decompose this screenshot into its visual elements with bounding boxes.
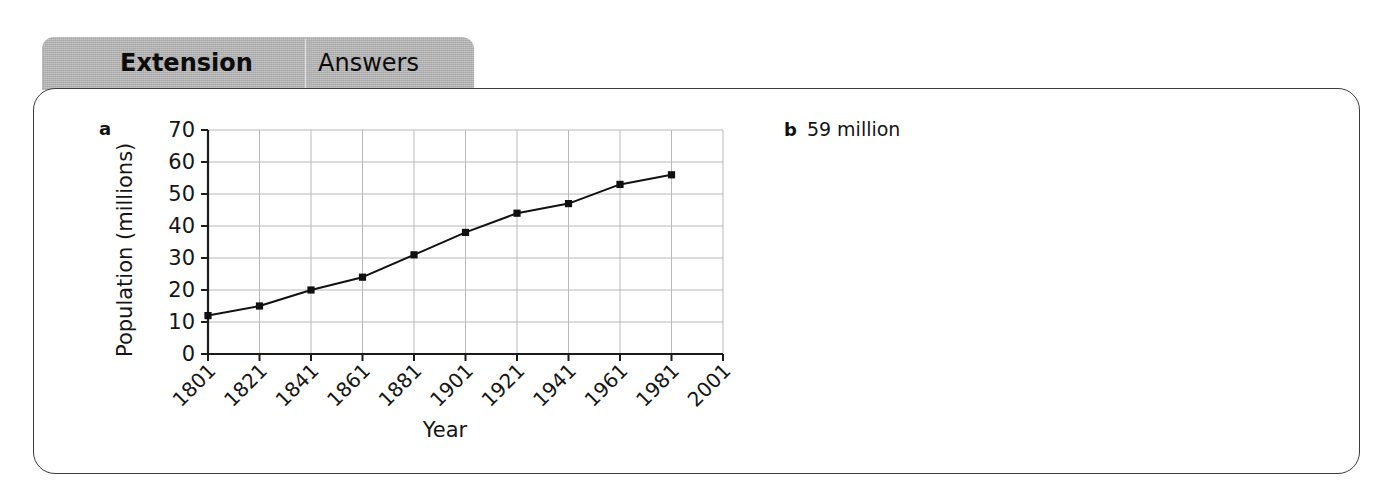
x-tick-label: 1981 (631, 359, 684, 412)
chart-series-population (204, 171, 675, 319)
data-point-marker (513, 210, 520, 217)
data-point-marker (410, 251, 417, 258)
chart-gridlines (208, 130, 723, 354)
data-point-marker (668, 171, 675, 178)
data-point-marker (616, 181, 623, 188)
y-tick-label: 50 (168, 182, 195, 206)
chart-x-tick-labels: 1801182118411861188119011921194119611981… (168, 359, 736, 412)
x-tick-label: 1821 (219, 359, 272, 412)
x-tick-label: 1941 (528, 359, 581, 412)
data-point-marker (565, 200, 572, 207)
chart-y-axis-title: Population (millions) (113, 143, 137, 357)
part-b-answer-text: 59 million (807, 118, 901, 140)
data-point-marker (462, 229, 469, 236)
x-tick-label: 1961 (580, 359, 633, 412)
tab-label-extension: Extension (120, 51, 253, 75)
tab-label-answers: Answers (318, 51, 419, 75)
population-line-chart: 010203040506070 180118211841186118811901… (110, 112, 770, 452)
x-tick-label: 1861 (322, 359, 375, 412)
data-point-marker (256, 302, 263, 309)
x-tick-label: 1841 (271, 359, 324, 412)
data-point-marker (307, 286, 314, 293)
extension-answers-tab[interactable]: Extension Answers (42, 37, 474, 90)
y-tick-label: 40 (168, 214, 195, 238)
y-tick-label: 70 (168, 118, 195, 142)
part-b-answer: b 59 million (784, 118, 900, 140)
x-tick-label: 1901 (425, 359, 478, 412)
y-tick-label: 20 (168, 278, 195, 302)
tab-inner: Extension Answers (42, 37, 474, 90)
y-tick-label: 60 (168, 150, 195, 174)
x-tick-label: 1881 (374, 359, 427, 412)
data-point-marker (359, 274, 366, 281)
chart-x-axis-title: Year (422, 418, 468, 442)
y-tick-label: 0 (182, 342, 195, 366)
x-tick-label: 1921 (477, 359, 530, 412)
data-point-marker (204, 312, 211, 319)
y-tick-label: 30 (168, 246, 195, 270)
chart-y-tick-labels: 010203040506070 (168, 118, 195, 366)
y-tick-label: 10 (168, 310, 195, 334)
x-tick-label: 1801 (168, 359, 221, 412)
chart-axes (201, 130, 723, 361)
tab-divider (305, 39, 306, 90)
x-tick-label: 2001 (683, 359, 736, 412)
part-b-letter: b (784, 119, 797, 140)
